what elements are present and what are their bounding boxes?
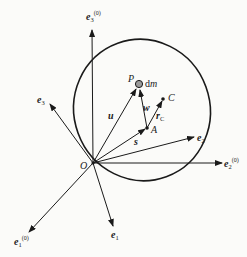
e1-label: e1 — [111, 229, 119, 241]
e1-0-label: e1(0) — [14, 235, 29, 248]
e2-label: e2 — [197, 132, 205, 144]
point-A — [145, 126, 149, 130]
e3-0-label: e3(0) — [86, 10, 101, 23]
e3-label: e3 — [37, 94, 45, 106]
point-C-label: C — [168, 92, 175, 103]
e1-axis — [93, 163, 113, 226]
u-label: u — [108, 110, 114, 121]
e3-0-axis — [92, 30, 93, 163]
u-vector — [93, 89, 136, 163]
rigid-body-outline — [54, 20, 230, 200]
w-label: w — [143, 102, 150, 113]
mass-element-dm — [135, 80, 142, 87]
e1-0-axis — [29, 163, 93, 232]
e3-axis — [50, 104, 93, 163]
point-P-label: P — [127, 73, 134, 84]
e2-0-label: e2(0) — [224, 157, 239, 170]
dm-label: dm — [145, 78, 157, 89]
diagram-canvas: O e3(0) e2(0) e1(0) e3 e2 e1 P dm A C u … — [0, 0, 247, 257]
e2-axis — [93, 137, 194, 163]
origin-O — [91, 161, 94, 164]
point-C — [161, 97, 165, 101]
rigid-body-diagram: O e3(0) e2(0) e1(0) e3 e2 e1 P dm A C u … — [0, 0, 247, 257]
s-label: s — [133, 136, 138, 147]
origin-label: O — [80, 160, 87, 171]
rC-label: rC — [156, 110, 164, 122]
point-A-label: A — [150, 124, 158, 135]
